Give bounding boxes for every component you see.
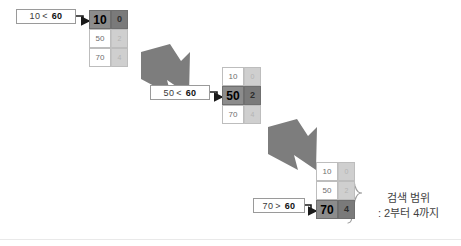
table-row[interactable]: 10 0 (222, 67, 261, 86)
cell-key: 50 (222, 86, 244, 105)
table-row[interactable]: 70 4 (316, 200, 355, 219)
condition-op-step-1: < (42, 11, 48, 21)
condition-right-step-3: 60 (285, 201, 296, 211)
range-caption: 검색 범위 : 2부터 4까지 (378, 191, 439, 221)
condition-left-step-2: 50 (164, 88, 175, 98)
cell-key: 10 (222, 67, 244, 86)
cell-value: 0 (338, 162, 355, 181)
table-row[interactable]: 10 0 (316, 162, 355, 181)
flow-arrow-2-icon (268, 119, 317, 170)
condition-op-step-2: < (176, 88, 182, 98)
cell-value: 0 (111, 10, 128, 29)
cell-value: 2 (338, 181, 355, 200)
table-row[interactable]: 50 2 (316, 181, 355, 200)
cell-value: 2 (244, 86, 261, 105)
cell-key: 70 (222, 105, 244, 124)
cell-value: 4 (244, 105, 261, 124)
connector-step-1 (76, 16, 89, 21)
condition-label-step-1: 10 < 60 (16, 9, 76, 24)
cell-value: 4 (338, 200, 355, 219)
condition-right-step-2: 60 (186, 88, 197, 98)
cell-key: 10 (89, 10, 111, 29)
cell-key: 10 (316, 162, 338, 181)
condition-label-step-3: 70 > 60 (253, 198, 305, 213)
table-row[interactable]: 10 0 (89, 10, 128, 29)
cell-value: 2 (111, 29, 128, 48)
table-step-3: 10 0 50 2 70 4 (316, 162, 355, 219)
cell-key: 70 (89, 48, 111, 67)
diagram-canvas: 10 < 60 10 0 50 2 70 4 50 < 60 10 0 50 2 (0, 0, 461, 246)
range-caption-line-2: : 2부터 4까지 (378, 206, 439, 221)
condition-label-step-2: 50 < 60 (150, 85, 210, 100)
table-row[interactable]: 70 4 (222, 105, 261, 124)
table-step-2: 10 0 50 2 70 4 (222, 67, 261, 124)
condition-left-step-3: 70 (263, 201, 274, 211)
table-row[interactable]: 70 4 (89, 48, 128, 67)
connector-step-2 (210, 92, 222, 97)
condition-right-step-1: 60 (52, 11, 63, 21)
range-caption-line-1: 검색 범위 (378, 191, 439, 206)
table-step-1: 10 0 50 2 70 4 (89, 10, 128, 67)
condition-left-step-1: 10 (30, 11, 41, 21)
table-row[interactable]: 50 2 (89, 29, 128, 48)
cell-value: 4 (111, 48, 128, 67)
cell-key: 50 (89, 29, 111, 48)
cell-value: 0 (244, 67, 261, 86)
table-row[interactable]: 50 2 (222, 86, 261, 105)
connector-step-3 (304, 205, 316, 211)
condition-op-step-3: > (275, 201, 281, 211)
cell-key: 70 (316, 200, 338, 219)
cell-key: 50 (316, 181, 338, 200)
